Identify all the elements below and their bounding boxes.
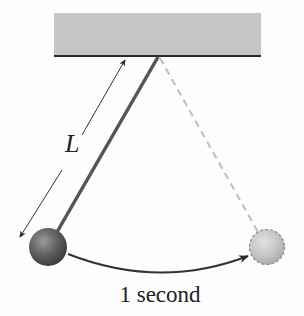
bob-start [29,228,67,266]
length-arrow-lower [20,170,62,237]
pendulum-diagram: L 1 second [0,0,304,316]
bob-end [250,230,285,265]
swing-arrow [68,254,248,273]
time-label: 1 second [119,282,201,307]
ceiling [54,13,261,56]
length-label: L [64,129,79,158]
ghost-string [160,58,258,232]
diagram-canvas: L 1 second [0,0,304,316]
